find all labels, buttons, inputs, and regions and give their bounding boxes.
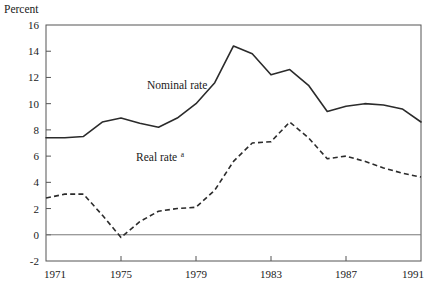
x-tick-label: 1971 <box>44 268 66 280</box>
x-tick-label: 1983 <box>260 268 283 280</box>
interest-rate-line-chart: Percent-20246810121416197119751979198319… <box>0 0 434 295</box>
plot-frame <box>46 25 421 261</box>
x-tick-label: 1987 <box>335 268 358 280</box>
x-tick-label: 1991 <box>402 268 424 280</box>
y-tick-label: 10 <box>28 98 40 110</box>
series-label-superscript: a <box>181 150 185 159</box>
series-line-real-rate <box>46 122 421 237</box>
y-tick-label: 0 <box>34 229 40 241</box>
series-label-real-rate: Real ratea <box>136 150 185 164</box>
y-tick-label: 6 <box>34 150 40 162</box>
y-tick-label: 2 <box>34 203 40 215</box>
y-tick-label: 4 <box>34 176 40 188</box>
series-label-text: Nominal rate <box>147 79 207 91</box>
series-label-nominal-rate: Nominal rate <box>147 79 207 91</box>
series-label-text: Real rate <box>136 151 177 163</box>
x-tick-label: 1975 <box>110 268 133 280</box>
y-tick-label: 8 <box>34 124 40 136</box>
y-tick-label: 12 <box>28 71 39 83</box>
y-tick-label: 16 <box>28 19 40 31</box>
x-tick-label: 1979 <box>185 268 208 280</box>
series-line-nominal-rate <box>46 46 421 138</box>
y-tick-label: -2 <box>30 255 39 267</box>
y-axis-title: Percent <box>4 3 39 15</box>
y-tick-label: 14 <box>28 45 40 57</box>
